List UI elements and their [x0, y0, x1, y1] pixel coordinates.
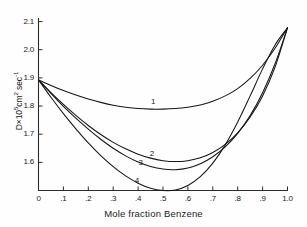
curve-label-2: 2 [150, 149, 154, 158]
chart-figure: 1.61.71.81.92.02.1 0.1.2.3.4.5.6.7.8.91.… [0, 0, 307, 227]
x-tick-label: .7 [202, 194, 224, 203]
axis-lines [38, 18, 288, 191]
y-tick-label: 2.1 [8, 17, 34, 26]
x-tick-label: .2 [77, 194, 99, 203]
x-tick-label: 0 [28, 194, 50, 203]
curve-3 [39, 28, 288, 170]
x-tick-label: .9 [252, 194, 274, 203]
y-axis-title: D×105cm2 sec-1 [14, 46, 24, 156]
x-tick-label: .4 [127, 194, 149, 203]
x-tick-label: .5 [152, 194, 174, 203]
y-axis-ticks [39, 22, 43, 163]
data-curves [39, 28, 288, 191]
x-axis-ticks [39, 187, 288, 191]
x-tick-label: .6 [177, 194, 199, 203]
x-tick-label: .1 [52, 194, 74, 203]
x-tick-label: .8 [227, 194, 249, 203]
curve-label-1: 1 [151, 97, 155, 106]
curve-label-4: 4 [135, 176, 139, 185]
curve-label-3: 3 [139, 158, 143, 167]
y-tick-label: 1.6 [8, 157, 34, 166]
x-tick-label: 1.0 [277, 194, 299, 203]
x-axis-title: Mole fraction Benzene [0, 208, 307, 219]
x-tick-label: .3 [102, 194, 124, 203]
